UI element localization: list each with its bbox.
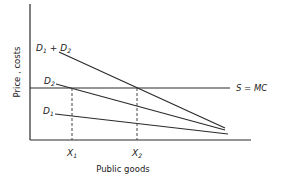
d1-label: D1	[43, 106, 54, 117]
x-axis-label: Public goods	[96, 164, 150, 174]
x2-label: X2	[131, 148, 142, 159]
supply-mc-label: S = MC	[236, 83, 267, 93]
d2-curve	[56, 84, 225, 130]
diagram: Price , costs D1+D2 D2 D1 S = MC X1 X2 P…	[0, 0, 288, 181]
d1-plus-d2-label: D1+D2	[36, 43, 71, 54]
d2-label: D2	[44, 76, 55, 87]
public-goods-diagram: Price , costs D1+D2 D2 D1 S = MC X1 X2 P…	[0, 0, 288, 181]
d1-plus-d2-curve	[59, 52, 225, 128]
x1-label: X1	[66, 148, 77, 159]
y-axis-label: Price , costs	[12, 46, 22, 97]
